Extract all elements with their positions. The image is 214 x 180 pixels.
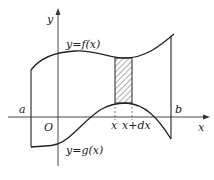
origin-label: O [44,121,53,134]
a-label: a [19,103,26,116]
strip-x-label: x [111,119,118,132]
g-curve-label: y=g(x) [65,144,103,157]
strip-xdx-label: x+dx [122,119,151,132]
upper-curve-f [31,34,174,70]
y-axis-arrow-icon [56,8,61,15]
diagram-canvas: y x O a b y=f(x) y=g(x) x x+dx [0,0,214,180]
b-label: b [175,103,182,116]
y-axis-label: y [46,13,54,26]
shaded-strip [115,58,132,103]
x-axis-arrow-icon [203,115,210,120]
f-curve-label: y=f(x) [65,38,100,51]
area-between-curves-diagram: y x O a b y=f(x) y=g(x) x x+dx [0,0,214,180]
x-axis-label: x [198,121,205,134]
